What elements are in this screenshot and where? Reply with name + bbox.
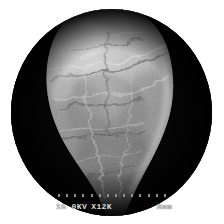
accelerating-voltage-label: 15 0KV [56, 202, 87, 211]
sem-micrograph-screenshot: 15 0KV X12K 3um [0, 0, 224, 224]
sem-annotation-bar: 15 0KV X12K 3um [56, 200, 172, 212]
scale-bar-label: 3um [156, 202, 172, 211]
micrograph-circle [11, 9, 212, 216]
micrograph-canvas [11, 9, 212, 216]
header-caption [0, 0, 224, 8]
aperture-vignette [11, 9, 212, 216]
magnification-label: X12K [91, 202, 112, 211]
